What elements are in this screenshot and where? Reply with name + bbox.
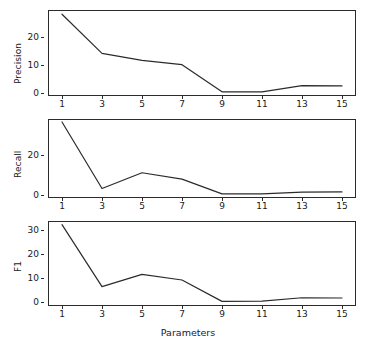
ylabel-precision: Precision (13, 43, 23, 84)
ytick-mark (41, 230, 44, 231)
xtick-label: 5 (139, 201, 145, 211)
plot-area-f1 (48, 221, 356, 306)
xtick-label: 13 (296, 309, 307, 319)
xtick-label: 9 (219, 201, 225, 211)
xtick-label: 13 (296, 99, 307, 109)
figure-canvas: 01020 Precision 13579111315 020 Recall 1… (0, 0, 376, 348)
ytick-label: 10 (28, 273, 39, 283)
xtick-label: 13 (296, 201, 307, 211)
xlabel-parameters: Parameters (0, 327, 376, 338)
ytick-mark (41, 195, 44, 196)
xtick-label: 3 (99, 201, 105, 211)
ylabel-recall: Recall (13, 151, 23, 178)
xtick-label: 15 (336, 201, 347, 211)
ytick-label: 20 (28, 150, 39, 160)
ytick-mark (41, 302, 44, 303)
xtick-label: 1 (59, 99, 65, 109)
plot-area-recall (48, 119, 356, 198)
xtick-label: 11 (256, 201, 267, 211)
ytick-mark (41, 155, 44, 156)
xtick-label: 11 (256, 309, 267, 319)
ytick-label: 20 (28, 32, 39, 42)
subplot-recall (48, 119, 356, 198)
xtick-label: 7 (179, 99, 185, 109)
xtick-labels-precision: 13579111315 (48, 96, 356, 112)
series-line-f1 (62, 225, 342, 302)
ytick-mark (41, 65, 44, 66)
ytick-label: 30 (28, 225, 39, 235)
xtick-labels-f1: 13579111315 (48, 306, 356, 322)
xtick-label: 9 (219, 99, 225, 109)
xtick-label: 7 (179, 201, 185, 211)
ytick-label: 0 (33, 297, 39, 307)
xtick-label: 1 (59, 201, 65, 211)
xtick-label: 11 (256, 99, 267, 109)
ytick-label: 0 (33, 190, 39, 200)
plot-area-precision (48, 10, 356, 96)
xtick-label: 5 (139, 99, 145, 109)
xtick-label: 3 (99, 309, 105, 319)
ytick-label: 20 (28, 249, 39, 259)
ytick-mark (41, 37, 44, 38)
xtick-label: 5 (139, 309, 145, 319)
ytick-labels-recall: 020 (22, 119, 44, 198)
xtick-label: 15 (336, 99, 347, 109)
ytick-mark (41, 278, 44, 279)
series-line-recall (62, 122, 342, 194)
ytick-labels-f1: 0102030 (22, 221, 44, 306)
series-line-precision (62, 14, 342, 92)
xtick-label: 7 (179, 309, 185, 319)
ytick-label: 10 (28, 60, 39, 70)
xtick-label: 1 (59, 309, 65, 319)
ylabel-f1: F1 (13, 261, 23, 272)
ytick-labels-precision: 01020 (22, 10, 44, 96)
subplot-f1 (48, 221, 356, 306)
ytick-mark (41, 254, 44, 255)
xtick-label: 9 (219, 309, 225, 319)
ytick-mark (41, 93, 44, 94)
subplot-precision (48, 10, 356, 96)
ytick-label: 0 (33, 88, 39, 98)
xtick-label: 15 (336, 309, 347, 319)
xtick-label: 3 (99, 99, 105, 109)
xtick-labels-recall: 13579111315 (48, 198, 356, 214)
